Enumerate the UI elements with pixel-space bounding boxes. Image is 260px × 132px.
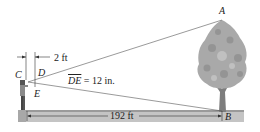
point-label-c: C — [15, 70, 22, 80]
diagram-canvas: A B C D E 2 ft DE = 12 in. 192 ft — [0, 0, 260, 132]
label-de-length: DE = 12 in. — [68, 76, 115, 86]
point-label-d: D — [38, 68, 45, 78]
segment-de: DE — [68, 75, 81, 86]
point-label-e: E — [34, 89, 40, 99]
de-value: = 12 in. — [81, 75, 114, 86]
tree — [197, 20, 246, 112]
point-label-b: B — [225, 112, 231, 122]
label-192ft: 192 ft — [110, 111, 134, 121]
sight-lines — [28, 20, 222, 111]
person — [20, 80, 28, 110]
label-2ft: 2 ft — [54, 53, 68, 63]
point-label-a: A — [219, 6, 225, 16]
